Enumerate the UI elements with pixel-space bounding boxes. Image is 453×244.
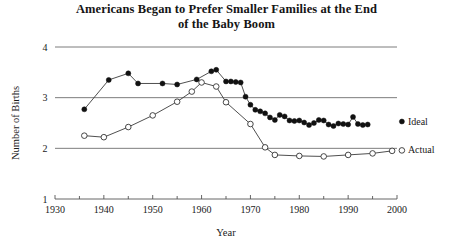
marker-ideal-1972 bbox=[258, 109, 263, 114]
x-tick-label-1940: 1940 bbox=[94, 204, 114, 215]
marker-ideal-1991 bbox=[351, 114, 356, 119]
chart-plot-area: 1234 19301940195019601970198019902000 Id… bbox=[0, 0, 453, 244]
x-tick-group bbox=[55, 195, 397, 199]
marker-ideal-1981 bbox=[302, 120, 307, 125]
marker-ideal-1968 bbox=[238, 80, 243, 85]
marker-ideal-1959 bbox=[194, 77, 199, 82]
marker-ideal-1967 bbox=[233, 79, 238, 84]
marker-ideal-1994 bbox=[365, 122, 370, 127]
series-inline-labels: IdealActual bbox=[399, 116, 435, 156]
marker-actual-1960 bbox=[199, 80, 205, 86]
marker-ideal-1963 bbox=[214, 67, 219, 72]
legend-label-actual: Actual bbox=[408, 144, 435, 155]
legend-marker-actual bbox=[399, 148, 405, 154]
marker-actual-1955 bbox=[174, 99, 180, 105]
y-tick-label-3: 3 bbox=[43, 92, 48, 103]
marker-actual-1980 bbox=[296, 153, 302, 159]
marker-ideal-1971 bbox=[253, 107, 258, 112]
x-axis-title: Year bbox=[216, 227, 236, 238]
marker-ideal-1955 bbox=[175, 82, 180, 87]
marker-actual-1975 bbox=[272, 152, 278, 158]
marker-ideal-1952 bbox=[160, 81, 165, 86]
marker-ideal-1965 bbox=[224, 79, 229, 84]
marker-ideal-1980 bbox=[297, 118, 302, 123]
marker-ideal-1986 bbox=[326, 122, 331, 127]
x-tick-label-1970: 1970 bbox=[240, 204, 260, 215]
y-tick-label-group: 1234 bbox=[43, 42, 48, 205]
marker-ideal-1982 bbox=[307, 123, 312, 128]
marker-ideal-1970 bbox=[248, 102, 253, 107]
marker-actual-1999 bbox=[389, 148, 395, 154]
marker-ideal-1973 bbox=[263, 111, 268, 116]
series-line-actual bbox=[84, 82, 392, 156]
y-tick-label-1: 1 bbox=[43, 194, 48, 205]
marker-ideal-1974 bbox=[267, 115, 272, 120]
legend-label-ideal: Ideal bbox=[408, 116, 428, 127]
x-tick-label-1960: 1960 bbox=[192, 204, 212, 215]
x-tick-label-2000: 2000 bbox=[387, 204, 407, 215]
marker-ideal-1941 bbox=[106, 77, 111, 82]
marker-ideal-1985 bbox=[321, 118, 326, 123]
marker-ideal-1983 bbox=[311, 121, 316, 126]
marker-actual-1970 bbox=[248, 121, 254, 127]
marker-ideal-1992 bbox=[355, 122, 360, 127]
marker-actual-1965 bbox=[223, 99, 229, 105]
marker-ideal-1990 bbox=[346, 122, 351, 127]
marker-actual-1945 bbox=[125, 124, 131, 130]
marker-ideal-1979 bbox=[292, 118, 297, 123]
marker-actual-1963 bbox=[213, 84, 219, 90]
marker-actual-1958 bbox=[189, 89, 195, 95]
marker-ideal-1989 bbox=[341, 122, 346, 127]
y-axis-title: Number of Births bbox=[10, 86, 21, 160]
y-tick-label-4: 4 bbox=[43, 42, 48, 53]
marker-ideal-1936 bbox=[82, 107, 87, 112]
marker-ideal-1977 bbox=[282, 114, 287, 119]
x-tick-label-group: 19301940195019601970198019902000 bbox=[45, 204, 407, 215]
y-tick-label-2: 2 bbox=[43, 143, 48, 154]
marker-ideal-1962 bbox=[209, 69, 214, 74]
x-tick-label-1930: 1930 bbox=[45, 204, 65, 215]
marker-actual-1985 bbox=[321, 154, 327, 160]
chart-figure: Americans Began to Prefer Smaller Famili… bbox=[0, 0, 453, 244]
marker-ideal-1966 bbox=[228, 79, 233, 84]
marker-ideal-1978 bbox=[287, 118, 292, 123]
marker-ideal-1945 bbox=[126, 71, 131, 76]
marker-ideal-1969 bbox=[243, 94, 248, 99]
marker-ideal-1976 bbox=[277, 112, 282, 117]
marker-actual-1936 bbox=[82, 133, 88, 139]
marker-ideal-1984 bbox=[316, 117, 321, 122]
x-tick-label-1980: 1980 bbox=[289, 204, 309, 215]
x-tick-label-1950: 1950 bbox=[143, 204, 163, 215]
legend-marker-ideal bbox=[399, 119, 404, 124]
marker-actual-1990 bbox=[345, 152, 351, 158]
marker-ideal-1975 bbox=[272, 117, 277, 122]
x-tick-label-1990: 1990 bbox=[338, 204, 358, 215]
marker-ideal-1947 bbox=[136, 81, 141, 86]
marker-ideal-1988 bbox=[336, 121, 341, 126]
marker-actual-1950 bbox=[150, 113, 156, 119]
marker-actual-1973 bbox=[262, 145, 268, 151]
marker-ideal-1987 bbox=[331, 124, 336, 129]
marker-actual-1995 bbox=[370, 151, 376, 157]
marker-actual-1940 bbox=[101, 134, 107, 140]
marker-ideal-1993 bbox=[360, 123, 365, 128]
